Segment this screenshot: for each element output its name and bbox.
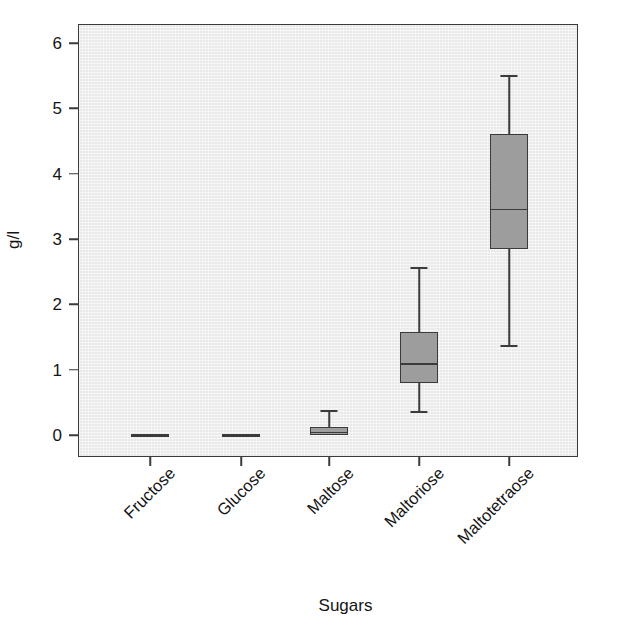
median-line xyxy=(310,432,348,434)
boxplot-series xyxy=(0,0,641,627)
boxplot-figure: 0123456 FructoseGlucoseMaltoseMaltoriose… xyxy=(0,0,641,627)
whisker-lower-cap xyxy=(500,345,517,347)
whisker-lower-stem xyxy=(418,383,420,413)
whisker-lower-cap xyxy=(410,411,427,413)
boxplot-flat-line xyxy=(131,434,169,437)
box-rect xyxy=(490,134,528,249)
whisker-upper-stem xyxy=(418,267,420,332)
whisker-upper-cap xyxy=(320,410,337,412)
y-axis-label: g/l xyxy=(4,231,24,249)
median-line xyxy=(490,209,528,211)
whisker-lower-stem xyxy=(508,249,510,347)
whisker-upper-stem xyxy=(508,75,510,134)
whisker-upper-cap xyxy=(500,75,517,77)
box-rect xyxy=(400,332,438,383)
whisker-upper-cap xyxy=(410,267,427,269)
x-axis-label-text: Sugars xyxy=(319,596,373,616)
x-axis-label: Sugars xyxy=(0,596,641,616)
whisker-upper-stem xyxy=(328,410,330,427)
boxplot-flat-line xyxy=(222,434,260,437)
median-line xyxy=(400,363,438,365)
